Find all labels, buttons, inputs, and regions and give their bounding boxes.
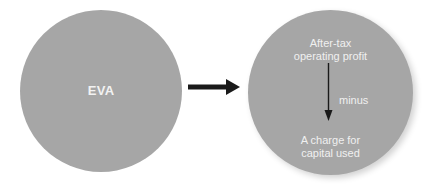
- right-arrow-icon: [188, 79, 240, 95]
- after-tax-operating-profit-text: After-tax operating profit: [248, 37, 413, 63]
- eva-circle: EVA: [20, 10, 182, 172]
- eva-formula-circle: After-tax operating profit minus A charg…: [248, 10, 413, 175]
- bottom-text-line-2: capital used: [248, 147, 413, 160]
- top-text-line-1: After-tax: [248, 37, 413, 50]
- eva-label: EVA: [20, 83, 182, 98]
- bottom-text-line-1: A charge for: [248, 134, 413, 147]
- minus-label: minus: [339, 94, 368, 107]
- capital-charge-text: A charge for capital used: [248, 134, 413, 160]
- top-text-line-2: operating profit: [248, 50, 413, 63]
